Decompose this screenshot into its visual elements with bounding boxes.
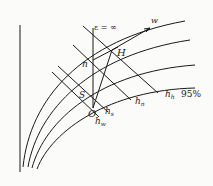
h-h-label: hh xyxy=(165,89,175,100)
diagram: ε = ∞ w H n S O hh 95% hn hs hw xyxy=(0,0,213,186)
w-label: w xyxy=(151,16,158,25)
n-label: n xyxy=(82,59,88,69)
percent-label: 95% xyxy=(181,89,201,99)
H-label: H xyxy=(116,47,126,58)
h-s-label: hs xyxy=(105,106,114,117)
h-s-line xyxy=(58,66,108,112)
h-n-label: hn xyxy=(135,96,145,107)
epsilon-label: ε = ∞ xyxy=(94,23,117,32)
curve-4 xyxy=(37,88,195,169)
psychrometric-diagram: ε = ∞ w H n S O hh 95% hn hs hw xyxy=(0,0,213,186)
h-w-label: hw xyxy=(95,116,107,127)
curve-1 xyxy=(23,21,185,167)
S-label: S xyxy=(79,90,85,100)
